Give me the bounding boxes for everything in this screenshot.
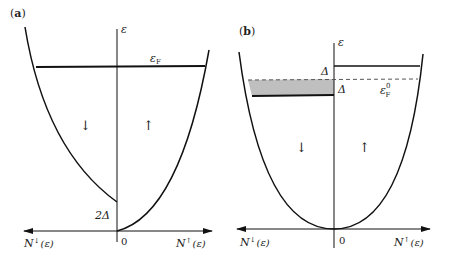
panel-b-right-axis-label: N↑(ε): [393, 236, 424, 249]
panel-a-origin-label: 0: [121, 236, 127, 247]
panel-a-down-spin-symbol: ↓: [80, 118, 91, 133]
panel-a-right-axis-label: N↑(ε): [175, 237, 206, 250]
panel-b-up-spin-symbol: ↑: [359, 140, 370, 155]
panel-b: (b) ε Δ Δ ε0F ↓ ↑ 0 N↓(ε) N↑(ε): [237, 25, 430, 249]
panel-b-left-axis-label: N↓(ε): [239, 236, 270, 249]
panel-b-energy-axis-label: ε: [338, 36, 344, 49]
spin-split-dos-figure: (a) ε εF ↓ ↑ 2Δ 0 N↓(ε) N↑(ε) (b) ε: [0, 0, 452, 263]
panel-a-down-spin-dos-curve: [25, 27, 117, 202]
panel-a-label: (a): [10, 7, 26, 20]
panel-b-down-spin-fermi-level: [252, 95, 334, 96]
panel-a-gap-label: 2Δ: [94, 209, 110, 222]
panel-b-delta-upper-label: Δ: [320, 65, 329, 78]
panel-a-fermi-label: εF: [150, 52, 161, 66]
panel-a-up-spin-symbol: ↑: [143, 118, 154, 133]
panel-b-label: (b): [239, 25, 255, 38]
panel-a-left-axis-label: N↓(ε): [23, 237, 54, 250]
figure-canvas: (a) ε εF ↓ ↑ 2Δ 0 N↓(ε) N↑(ε) (b) ε: [0, 0, 452, 263]
panel-a-energy-axis-label: ε: [121, 23, 127, 36]
panel-a: (a) ε εF ↓ ↑ 2Δ 0 N↓(ε) N↑(ε): [10, 7, 212, 250]
panel-a-up-spin-dos-curve: [117, 50, 209, 231]
panel-b-origin-label: 0: [339, 235, 345, 246]
panel-b-up-spin-dos-curve: [334, 54, 423, 229]
panel-b-delta-lower-label: Δ: [337, 83, 346, 96]
panel-b-fermi0-label: ε0F: [380, 82, 390, 99]
panel-b-down-spin-dos-curve: [239, 52, 334, 229]
panel-b-shaded-depleted-region: [248, 79, 334, 96]
panel-a-fermi-level-line: [36, 66, 205, 67]
panel-b-down-spin-symbol: ↓: [296, 140, 307, 155]
